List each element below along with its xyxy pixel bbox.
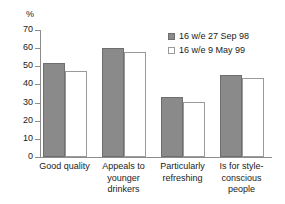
- bar: [183, 102, 205, 157]
- category-label-line: refreshing: [150, 173, 216, 185]
- y-axis-tick-label: 40: [0, 79, 33, 88]
- y-axis-tick: [35, 103, 40, 104]
- bar: [65, 71, 87, 157]
- y-axis-tick: [35, 157, 40, 158]
- y-axis-unit-label: %: [26, 9, 34, 19]
- category-label-line: younger: [91, 173, 157, 185]
- y-axis-tick: [35, 66, 40, 67]
- bar: [43, 63, 65, 157]
- x-axis-category-label: Appeals toyoungerdrinkers: [91, 161, 157, 196]
- y-axis-tick: [35, 84, 40, 85]
- x-axis-line: [40, 157, 272, 158]
- category-label-line: Appeals to: [91, 161, 157, 173]
- legend-item: 16 w/e 27 Sep 98: [168, 30, 249, 42]
- category-label-line: Good quality: [32, 161, 98, 173]
- chart-screenshot: % 010203040506070 Good qualityAppeals to…: [0, 0, 285, 204]
- y-axis-tick-label: 50: [0, 61, 33, 70]
- chart-legend: 16 w/e 27 Sep 98 16 w/e 9 May 99: [168, 30, 249, 58]
- bar: [220, 75, 242, 157]
- category-label-line: people: [209, 184, 275, 196]
- bar: [161, 97, 183, 157]
- y-axis-tick-label: 30: [0, 98, 33, 107]
- y-axis-tick-label: 70: [0, 25, 33, 34]
- category-label-line: Particularly: [150, 161, 216, 173]
- y-axis-tick-label: 20: [0, 116, 33, 125]
- y-axis-tick: [35, 139, 40, 140]
- x-axis-category-label: Particularlyrefreshing: [150, 161, 216, 184]
- category-label-line: conscious: [209, 173, 275, 185]
- legend-swatch-icon: [168, 33, 175, 40]
- x-axis-category-label: Is for style-consciouspeople: [209, 161, 275, 196]
- bar: [102, 48, 124, 157]
- legend-item: 16 w/e 9 May 99: [168, 44, 249, 56]
- y-axis-tick-label: 60: [0, 43, 33, 52]
- legend-swatch-icon: [168, 47, 175, 54]
- bar: [242, 78, 264, 157]
- category-label-line: Is for style-: [209, 161, 275, 173]
- legend-item-label: 16 w/e 27 Sep 98: [179, 31, 249, 41]
- bar: [124, 52, 146, 157]
- x-axis-category-label: Good quality: [32, 161, 98, 173]
- y-axis-tick-label: 10: [0, 134, 33, 143]
- y-axis-tick: [35, 48, 40, 49]
- y-axis-tick-label: 0: [0, 152, 33, 161]
- y-axis-tick: [35, 121, 40, 122]
- category-label-line: drinkers: [91, 184, 157, 196]
- legend-item-label: 16 w/e 9 May 99: [179, 45, 245, 55]
- y-axis-tick: [35, 30, 40, 31]
